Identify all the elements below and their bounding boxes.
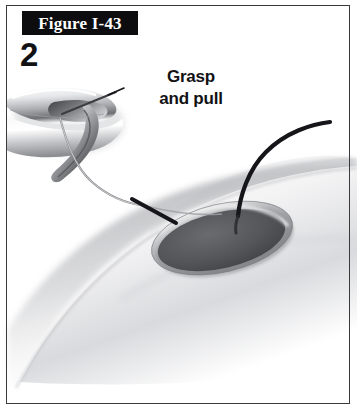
instruction-caption: Grasp and pull [128,66,254,111]
step-number: 2 [20,38,38,71]
caption-line-1: Grasp [128,66,254,88]
figure-page: Figure I-43 2 Grasp and pull [0,0,357,410]
caption-line-2: and pull [128,88,254,110]
illustration-artwork [0,0,357,410]
figure-label-text: Figure I-43 [38,15,122,32]
figure-label-box: Figure I-43 [22,11,138,35]
